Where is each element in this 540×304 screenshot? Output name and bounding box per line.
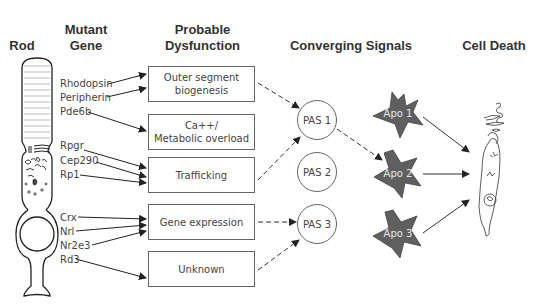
- dysfunction-label-line2: Metabolic overload: [154, 132, 249, 145]
- gene-label-nrl: Nrl: [60, 226, 74, 238]
- dysfunction-label: Gene expression: [160, 216, 244, 229]
- pas-2-node: PAS 2: [297, 152, 337, 192]
- dysfunction-label: Unknown: [178, 263, 224, 276]
- apo-3-label: Apo 3: [373, 228, 423, 239]
- pas-3-node: PAS 3: [297, 204, 337, 244]
- gene-label-rhodopsin: Rhodopsin: [60, 78, 113, 90]
- dysfunction-box-trafficking: Trafficking: [148, 157, 255, 193]
- pas-label: PAS 1: [303, 115, 331, 126]
- dysfunction-box-outer-segment: Outer segment biogenesis: [148, 66, 255, 102]
- dysfunction-box-unknown: Unknown: [148, 251, 255, 287]
- pas-label: PAS 3: [303, 219, 331, 230]
- gene-label-crx: Crx: [60, 212, 77, 224]
- dysfunction-label: Trafficking: [176, 169, 227, 182]
- dysfunction-label-line1: Ca++/: [185, 119, 218, 132]
- apo-2-label: Apo 2: [373, 168, 423, 179]
- dead-cell-icon: [479, 103, 504, 236]
- apo-to-death-arrows: [423, 117, 469, 233]
- apo-1-label: Apo 1: [373, 108, 423, 119]
- gene-label-nr2e3: Nr2e3: [60, 240, 90, 252]
- pas-label: PAS 2: [303, 167, 331, 178]
- dysfunction-label-line2: biogenesis: [175, 84, 228, 97]
- rod-cell-icon: [16, 58, 58, 296]
- diagram-graphics: [0, 0, 540, 304]
- dysfunction-box-metabolic-overload: Ca++/ Metabolic overload: [148, 114, 255, 150]
- gene-label-rpgr: Rpgr: [60, 140, 84, 152]
- gene-label-rp1: Rp1: [60, 169, 80, 181]
- gene-label-cep290: Cep290: [60, 155, 99, 167]
- dysfunction-box-gene-expression: Gene expression: [148, 204, 255, 240]
- dysfunction-label-line1: Outer segment: [164, 71, 239, 84]
- pas-1-node: PAS 1: [297, 100, 337, 140]
- gene-label-peripherin: Peripherin: [60, 92, 111, 104]
- gene-label-pde6b: Pde6b: [60, 106, 91, 118]
- gene-label-rd3: Rd3: [60, 254, 80, 266]
